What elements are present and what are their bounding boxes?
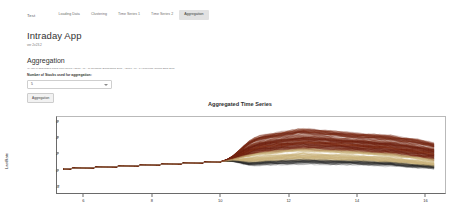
tab-time-series-1[interactable]: Time Series 1 — [113, 10, 145, 20]
x-tick-mark — [151, 194, 152, 197]
x-tick-label: 6 — [82, 198, 84, 203]
x-tick-mark — [357, 194, 358, 197]
page-version: ver 2v23.2 — [27, 44, 42, 47]
tab-time-series-2[interactable]: Time Series 2 — [146, 10, 178, 20]
chevron-down-icon — [104, 84, 108, 86]
x-tick-mark — [83, 194, 84, 197]
baseline-series — [64, 162, 221, 169]
x-tick-mark — [425, 194, 426, 197]
y-tick-mark — [56, 137, 59, 138]
y-axis-label: LastRate — [4, 153, 9, 169]
aggregated-time-series-chart: Aggregated Time Series LastRate time -20… — [20, 102, 460, 220]
plot-lines — [57, 117, 445, 193]
aggregation-description: (1) Info of aggregated actual Time serie… — [27, 68, 447, 71]
y-tick-mark — [56, 169, 59, 170]
tab-aggregation[interactable]: Aggregation — [179, 10, 208, 20]
stocks-count-select[interactable]: 5 — [27, 80, 112, 89]
tab-loading-data[interactable]: Loading Data — [53, 10, 84, 20]
x-tick-mark — [220, 194, 221, 197]
x-tick-label: 10 — [218, 198, 222, 203]
x-tick-label: 14 — [355, 198, 359, 203]
plot-area — [56, 116, 446, 194]
navbar-brand[interactable]: Test — [27, 13, 35, 18]
navbar: Test Loading Data Clustering Time Series… — [0, 8, 465, 22]
x-tick-mark — [288, 194, 289, 197]
x-tick-label: 8 — [151, 198, 153, 203]
x-tick-label: 16 — [423, 198, 427, 203]
page-title: Intraday App — [27, 31, 82, 41]
stocks-count-value: 5 — [31, 83, 33, 86]
navbar-tabs: Loading Data Clustering Time Series 1 Ti… — [53, 10, 208, 20]
y-tick-mark — [56, 185, 59, 186]
tab-clustering[interactable]: Clustering — [86, 10, 112, 20]
y-tick-mark — [56, 120, 59, 121]
y-tick-mark — [56, 153, 59, 154]
x-tick-label: 12 — [286, 198, 290, 203]
chart-title: Aggregated Time Series — [20, 102, 460, 108]
section-title-aggregation: Aggregation — [27, 57, 65, 64]
stocks-count-label: Number of Stocks used for aggregation: — [27, 74, 92, 77]
app-root: Test Loading Data Clustering Time Series… — [0, 0, 465, 222]
